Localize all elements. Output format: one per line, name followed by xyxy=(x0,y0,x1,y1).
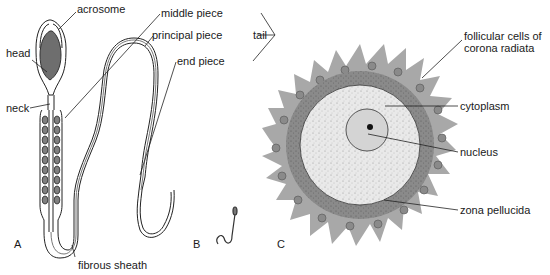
panel-label-c: C xyxy=(277,238,285,250)
label-follicular-cells: follicular cells ofcorona radiata xyxy=(464,30,542,54)
panel-label-b: B xyxy=(193,238,200,250)
ovum-drawing xyxy=(262,44,458,246)
label-acrosome: acrosome xyxy=(77,3,125,15)
label-middle-piece: middle piece xyxy=(161,7,223,19)
sperm-scale-drawing xyxy=(217,207,237,244)
label-fibrous-sheath: fibrous sheath xyxy=(78,259,147,271)
label-neck: neck xyxy=(6,102,29,114)
label-principal-piece: principal piece xyxy=(152,29,222,41)
label-zona-pellucida: zona pellucida xyxy=(460,204,530,216)
sperm-detailed-drawing xyxy=(36,20,174,258)
label-head: head xyxy=(6,47,30,59)
label-nucleus: nucleus xyxy=(460,146,498,158)
panel-label-a: A xyxy=(14,238,21,250)
label-tail: tail xyxy=(253,29,267,41)
label-cytoplasm: cytoplasm xyxy=(460,100,510,112)
sperm-leader-lines xyxy=(30,12,275,257)
label-end-piece: end piece xyxy=(177,55,225,67)
